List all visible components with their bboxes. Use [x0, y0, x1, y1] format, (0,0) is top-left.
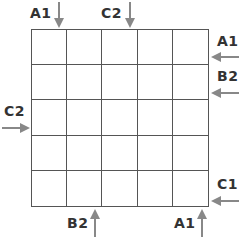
grid-cell-r1c2[interactable]	[67, 30, 102, 65]
clue-left-row3-label: C2	[4, 103, 25, 119]
clue-bottom-col5-label: A1	[174, 215, 196, 231]
grid-cell-r5c2[interactable]	[67, 171, 102, 206]
clue-right-row5-label: C1	[217, 176, 238, 192]
grid-cell-r2c2[interactable]	[67, 65, 102, 100]
grid-cell-r2c5[interactable]	[173, 65, 208, 100]
grid-cell-r4c5[interactable]	[173, 136, 208, 171]
arrow-left-icon	[211, 88, 239, 98]
grid-cell-r4c3[interactable]	[102, 136, 137, 171]
clue-right-row1-label: A1	[217, 33, 239, 49]
grid-cell-r1c4[interactable]	[138, 30, 173, 65]
grid-cell-r3c1[interactable]	[32, 100, 67, 135]
grid-cell-r1c5[interactable]	[173, 30, 208, 65]
grid-cell-r2c3[interactable]	[102, 65, 137, 100]
arrow-down-icon	[54, 2, 64, 28]
grid-cell-r5c1[interactable]	[32, 171, 67, 206]
clue-top-col1-label: A1	[30, 5, 52, 21]
grid-cell-r2c4[interactable]	[138, 65, 173, 100]
grid-cell-r2c1[interactable]	[32, 65, 67, 100]
grid-cell-r3c3[interactable]	[102, 100, 137, 135]
grid-cell-r3c2[interactable]	[67, 100, 102, 135]
arrow-up-icon	[90, 209, 100, 237]
grid-cell-r3c5[interactable]	[173, 100, 208, 135]
grid-cell-r5c4[interactable]	[138, 171, 173, 206]
grid-cell-r5c3[interactable]	[102, 171, 137, 206]
clue-right-row2-label: B2	[217, 68, 238, 84]
clue-bottom-col2-label: B2	[67, 215, 88, 231]
grid-cell-r1c3[interactable]	[102, 30, 137, 65]
arrow-down-icon	[125, 2, 135, 28]
arrow-right-icon	[2, 123, 30, 133]
puzzle-grid	[31, 29, 209, 207]
grid-cell-r1c1[interactable]	[32, 30, 67, 65]
grid-cell-r3c4[interactable]	[138, 100, 173, 135]
clue-top-col4-label: C2	[101, 5, 122, 21]
arrow-left-icon	[211, 196, 239, 206]
grid-cell-r5c5[interactable]	[173, 171, 208, 206]
grid-cell-r4c2[interactable]	[67, 136, 102, 171]
grid-cell-r4c1[interactable]	[32, 136, 67, 171]
grid-cell-r4c4[interactable]	[138, 136, 173, 171]
arrow-up-icon	[197, 209, 207, 237]
arrow-left-icon	[211, 52, 239, 62]
